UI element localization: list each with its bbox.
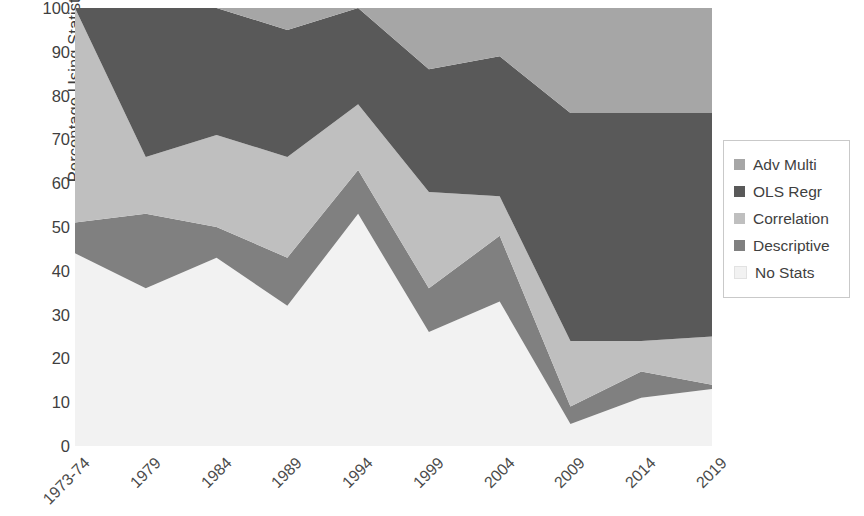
legend-item[interactable]: No Stats xyxy=(734,259,841,286)
legend-item[interactable]: Descriptive xyxy=(734,232,841,259)
legend-swatch-icon xyxy=(734,159,745,170)
legend-item-label: OLS Regr xyxy=(753,184,822,200)
y-tick-label: 50 xyxy=(52,218,70,237)
legend-item[interactable]: Adv Multi xyxy=(734,151,841,178)
y-tick-label: 20 xyxy=(52,349,70,368)
y-tick-label: 30 xyxy=(52,305,70,324)
legend-item-label: Descriptive xyxy=(753,238,830,254)
legend-item-label: Adv Multi xyxy=(753,157,817,173)
area-series-canvas xyxy=(75,8,712,446)
chart-legend: Adv MultiOLS RegrCorrelationDescriptiveN… xyxy=(723,140,850,298)
y-tick-label: 60 xyxy=(52,174,70,193)
stacked-area-chart: Percentage Using Statistical Method 1009… xyxy=(0,0,864,516)
legend-swatch-icon xyxy=(734,240,745,251)
plot-area xyxy=(75,8,712,446)
legend-item[interactable]: OLS Regr xyxy=(734,178,841,205)
legend-swatch-icon xyxy=(734,186,745,197)
legend-swatch-icon xyxy=(734,213,745,224)
y-tick-label: 100 xyxy=(42,0,70,18)
y-tick-label: 10 xyxy=(52,393,70,412)
legend-item-label: Correlation xyxy=(753,211,829,227)
y-tick-label: 40 xyxy=(52,261,70,280)
y-tick-label: 80 xyxy=(52,86,70,105)
legend-swatch-icon xyxy=(734,266,747,279)
x-axis-tick-labels: 1973-74197919841989199419992004200920142… xyxy=(0,446,864,516)
x-tick-label: 1973-74 xyxy=(0,454,94,516)
y-tick-label: 90 xyxy=(52,42,70,61)
y-tick-label: 70 xyxy=(52,130,70,149)
legend-item[interactable]: Correlation xyxy=(734,205,841,232)
legend-item-label: No Stats xyxy=(755,265,814,281)
y-axis-tick-labels: 1009080706050403020100 xyxy=(22,0,70,460)
